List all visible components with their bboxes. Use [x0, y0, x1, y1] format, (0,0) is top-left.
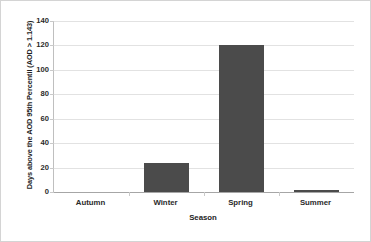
x-axis-tick-labels: AutumnWinterSpringSummer [53, 197, 353, 209]
bar-spring[interactable] [219, 45, 264, 192]
x-axis-tick-label-summer: Summer [278, 197, 353, 209]
bar-slot [54, 21, 129, 192]
bar-winter[interactable] [144, 163, 189, 192]
x-axis-tick-label-spring: Spring [203, 197, 278, 209]
x-axis-tick-label-autumn: Autumn [53, 197, 128, 209]
bar-slot [204, 21, 279, 192]
bar-slot [129, 21, 204, 192]
x-axis-tickmark [129, 192, 130, 196]
plot-area [53, 21, 354, 193]
x-axis-tick-label-winter: Winter [128, 197, 203, 209]
bar-chart-figure: Days above the AOD 95th Percentil (AOD >… [0, 0, 371, 242]
y-axis-tick-label: 140 [28, 16, 49, 26]
y-axis-tick-label: 100 [28, 65, 49, 75]
y-axis-tick-label: 120 [28, 40, 49, 50]
y-axis-tickmark [50, 192, 54, 193]
bar-summer[interactable] [294, 190, 339, 192]
y-axis-tick-label: 80 [28, 89, 49, 99]
x-axis-tickmark [279, 192, 280, 196]
bar-series [54, 21, 354, 192]
y-axis-tick-label: 40 [28, 138, 49, 148]
x-axis-tickmark [204, 192, 205, 196]
y-axis-tick-label: 20 [28, 163, 49, 173]
x-axis-title: Season [53, 212, 353, 224]
bar-slot [279, 21, 354, 192]
y-axis-tick-label: 60 [28, 114, 49, 124]
y-axis-tick-labels: 020406080100120140 [28, 15, 49, 193]
y-axis-tick-label: 0 [28, 187, 49, 197]
